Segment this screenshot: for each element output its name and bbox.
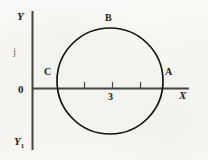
figure-canvas: Y j 0 Y1 X A B C 3 [0, 0, 208, 160]
y-negative-axis-letter: Y [14, 135, 21, 147]
circle-shape [57, 28, 163, 134]
point-label-a: A [165, 67, 172, 77]
unit-marker-label: j [13, 46, 16, 57]
x-axis-label: X [179, 90, 186, 101]
point-label-c: C [44, 67, 51, 77]
y-negative-axis-label: Y1 [14, 136, 24, 150]
y-negative-axis-subscript: 1 [21, 142, 25, 150]
origin-label: 0 [18, 84, 24, 95]
y-axis-label: Y [17, 11, 24, 22]
x-axis-tick-label-3: 3 [108, 92, 113, 102]
point-label-b: B [105, 13, 112, 23]
coordinate-plot [0, 0, 208, 160]
